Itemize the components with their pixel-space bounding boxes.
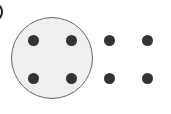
- group-circle: [11, 17, 93, 99]
- grouped-dot: [28, 73, 39, 84]
- ungrouped-dot: [142, 73, 153, 84]
- grouped-dot: [28, 35, 39, 46]
- partial-label-arc: [0, 4, 3, 20]
- grouped-dot: [66, 35, 77, 46]
- grouped-dot: [66, 73, 77, 84]
- ungrouped-dot: [104, 35, 115, 46]
- ungrouped-dot: [104, 73, 115, 84]
- ungrouped-dot: [142, 35, 153, 46]
- dot-grouping-diagram: [0, 0, 171, 114]
